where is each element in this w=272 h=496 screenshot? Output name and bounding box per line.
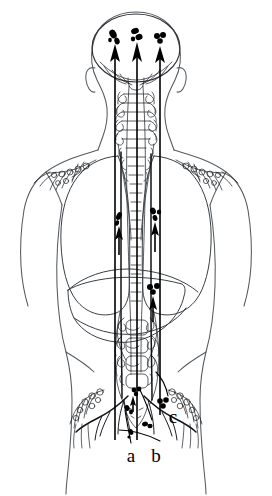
anatomy-svg: a b c <box>0 0 272 496</box>
label-b: b <box>151 445 161 466</box>
figure-background <box>0 0 272 496</box>
anatomical-figure: a b c <box>0 0 272 496</box>
label-c: c <box>169 406 177 427</box>
label-a: a <box>127 445 136 466</box>
